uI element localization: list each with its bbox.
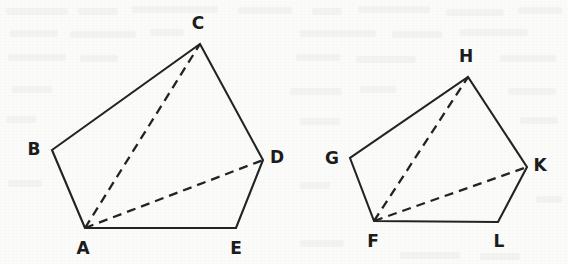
diagonal-f-k	[374, 167, 527, 221]
geometry-diagram: ABCDEFGHKL	[0, 0, 568, 264]
figure-root: ABCDEFGHKL	[0, 0, 568, 264]
diagonal-a-c	[85, 44, 200, 228]
diagonal-a-d	[85, 160, 263, 228]
pentagon-fghkl-outline	[350, 77, 527, 222]
vertex-label-f: F	[367, 231, 379, 251]
vertex-label-a: A	[76, 238, 90, 258]
shape-layer	[52, 44, 527, 228]
diagonal-f-h	[374, 77, 468, 221]
vertex-label-b: B	[28, 139, 41, 159]
vertex-label-h: H	[459, 46, 473, 66]
vertex-label-g: G	[325, 148, 339, 168]
vertex-label-e: E	[230, 238, 242, 258]
vertex-label-k: K	[533, 155, 547, 175]
vertex-label-d: D	[270, 147, 284, 167]
vertex-label-l: L	[494, 231, 505, 251]
vertex-label-c: C	[192, 13, 204, 33]
